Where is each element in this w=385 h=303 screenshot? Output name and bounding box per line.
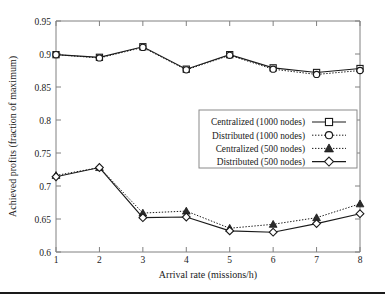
x-tick-label: 3 [140,255,145,265]
diamond-marker [356,210,364,218]
data-marker [140,44,146,50]
diamond-marker [269,228,277,236]
x-axis-title: Arrival rate (missions/h) [159,269,257,281]
line-chart: 0.60.650.70.750.80.850.90.9512345678Arri… [0,0,385,303]
y-tick-label: 0.6 [39,248,51,258]
footer-rule [0,292,385,294]
series-1 [53,44,363,77]
x-tick-label: 5 [227,255,232,265]
circle-marker [270,66,276,72]
circle-marker [183,67,189,73]
y-tick-label: 0.75 [34,149,51,159]
data-marker [325,118,332,125]
circle-marker [357,67,363,73]
circle-marker [313,71,319,77]
figure-container: 0.60.650.70.750.80.850.90.9512345678Arri… [0,0,385,303]
y-tick-label: 0.65 [34,215,51,225]
y-tick-label: 0.85 [34,83,51,93]
chart-legend: Centralized (1000 nodes)Distributed (100… [199,110,357,168]
series-3 [52,164,364,236]
legend-label-0: Centralized (1000 nodes) [211,117,305,128]
x-tick-label: 2 [97,255,102,265]
data-marker [313,71,319,77]
y-tick-label: 0.7 [39,182,51,192]
y-tick-label: 0.9 [39,50,51,60]
y-tick-label: 0.95 [34,17,51,27]
data-marker [96,55,102,61]
data-marker [356,210,364,218]
data-marker [226,227,234,235]
data-marker [325,132,332,139]
square-marker [325,118,332,125]
data-marker [227,52,233,58]
legend-label-3: Distributed (500 nodes) [217,157,305,168]
data-marker [269,228,277,236]
triangle-marker [356,200,364,207]
legend-label-1: Distributed (1000 nodes) [212,131,305,142]
x-tick-label: 1 [54,255,59,265]
diamond-marker [226,227,234,235]
data-marker [183,67,189,73]
legend-label-2: Centralized (500 nodes) [216,144,305,155]
circle-marker [227,52,233,58]
data-marker [270,66,276,72]
x-tick-label: 8 [358,255,363,265]
circle-marker [140,44,146,50]
data-marker [356,200,364,207]
data-marker [53,52,59,58]
data-marker [52,173,60,181]
y-tick-label: 0.8 [39,116,51,126]
circle-marker [96,55,102,61]
data-marker [357,67,363,73]
diamond-marker [52,173,60,181]
x-tick-label: 7 [314,255,319,265]
x-tick-label: 4 [184,255,189,265]
y-axis-title: Achieved profits (fraction of maximum) [7,56,19,217]
circle-marker [53,52,59,58]
circle-marker [325,132,332,139]
x-tick-label: 6 [271,255,276,265]
